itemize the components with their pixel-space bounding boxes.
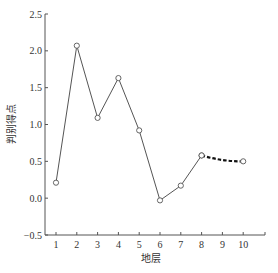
x-tick-label: 10 [238, 239, 248, 250]
data-point-marker [116, 75, 121, 80]
data-series [53, 43, 245, 203]
data-point-marker [199, 153, 204, 158]
y-tick-label: −0.5 [24, 230, 42, 241]
x-tick-label: 8 [199, 239, 204, 250]
x-axis-title: 地层 [141, 252, 161, 264]
x-tick-label: 7 [178, 239, 183, 250]
x-tick-label: 2 [74, 239, 79, 250]
data-point-marker [157, 198, 162, 203]
data-point-marker [74, 43, 79, 48]
data-point-marker [137, 128, 142, 133]
x-tick-label: 1 [54, 239, 59, 250]
y-tick-label: 0.0 [30, 193, 43, 204]
x-tick-label: 9 [220, 239, 225, 250]
line-chart: 2.52.01.51.00.50.0−0.5 12345678910 地层 判别… [0, 0, 278, 273]
x-tick-label: 4 [116, 239, 121, 250]
y-tick-label: 1.5 [30, 82, 43, 93]
y-tick-label: 1.0 [30, 119, 43, 130]
y-tick-label: 0.5 [30, 156, 43, 167]
y-tick-label: 2.0 [30, 45, 43, 56]
data-point-marker [95, 115, 100, 120]
data-point-marker [53, 180, 58, 185]
x-tick-label: 6 [158, 239, 163, 250]
series-line-predicted [202, 155, 244, 161]
data-point-marker [178, 183, 183, 188]
x-tick-label: 5 [137, 239, 142, 250]
x-tick-label: 3 [95, 239, 100, 250]
data-point-marker [241, 159, 246, 164]
series-line-observed [56, 46, 202, 201]
y-axis-ticks: 2.52.01.51.00.50.0−0.5 [24, 9, 48, 241]
y-tick-label: 2.5 [30, 9, 43, 20]
y-axis-title: 判别得点 [6, 104, 17, 144]
